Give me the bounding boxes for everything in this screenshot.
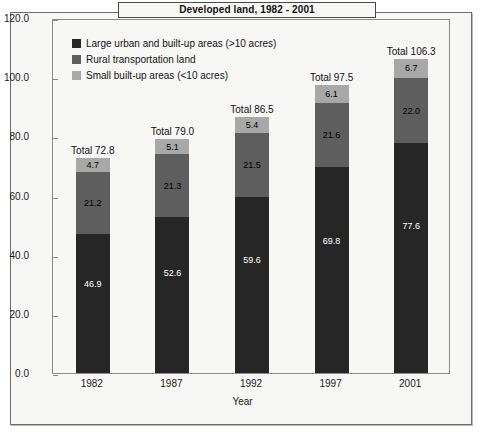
- y-tick-mark: [53, 79, 58, 80]
- bar-segment[interactable]: 5.1: [155, 139, 189, 154]
- y-tick-mark: [53, 316, 58, 317]
- legend-item-label: Rural transportation land: [86, 54, 196, 65]
- bar-segment-value: 22.0: [394, 106, 428, 116]
- legend-item[interactable]: Rural transportation land: [72, 52, 322, 67]
- bar-stack: 6.722.077.6: [394, 59, 428, 373]
- bar-segment[interactable]: 21.5: [235, 133, 269, 197]
- legend-item[interactable]: Small built-up areas (<10 acres): [72, 68, 322, 83]
- bar-segment-value: 5.1: [155, 142, 189, 152]
- x-tick-label-1997: 1997: [301, 378, 361, 389]
- y-tick-mark: [53, 138, 58, 139]
- legend-item[interactable]: Large urban and built-up areas (>10 acre…: [72, 36, 322, 51]
- x-tick-label-1982: 1982: [62, 378, 122, 389]
- bar-segment[interactable]: 77.6: [394, 143, 428, 373]
- legend-swatch-large-urban: [72, 39, 81, 48]
- bar-stack: 5.121.352.6: [155, 139, 189, 373]
- bar-segment-value: 59.6: [235, 255, 269, 265]
- y-tick-label: 120.0: [0, 13, 29, 24]
- bar-segment-value: 21.5: [235, 160, 269, 170]
- bar-stack: 5.421.559.6: [235, 117, 269, 373]
- y-tick-label: 80.0: [0, 131, 29, 142]
- legend-item-label: Large urban and built-up areas (>10 acre…: [86, 38, 276, 49]
- bar-segment[interactable]: 52.6: [155, 217, 189, 373]
- y-tick-label: 40.0: [0, 250, 29, 261]
- x-tick-label-2001: 2001: [380, 378, 440, 389]
- legend-item-label: Small built-up areas (<10 acres): [86, 70, 228, 81]
- chart-title: Developed land, 1982 - 2001: [118, 2, 376, 18]
- y-tick-label: 60.0: [0, 191, 29, 202]
- bar-segment-value: 4.7: [76, 160, 110, 170]
- bar-segment-value: 6.1: [315, 89, 349, 99]
- y-tick-mark: [53, 257, 58, 258]
- legend-swatch-rural-transportation: [72, 55, 81, 64]
- bar-total-label: Total 79.0: [133, 126, 211, 137]
- bar-segment-value: 46.9: [76, 279, 110, 289]
- bar-segment-value: 77.6: [394, 221, 428, 231]
- y-tick-label: 0.0: [0, 368, 29, 379]
- bar-segment[interactable]: 21.6: [315, 103, 349, 167]
- y-tick-label: 100.0: [0, 72, 29, 83]
- bar-segment[interactable]: 21.3: [155, 154, 189, 217]
- bar-segment-value: 6.7: [394, 63, 428, 73]
- bar-segment[interactable]: 59.6: [235, 197, 269, 373]
- bar-segment-value: 69.8: [315, 236, 349, 246]
- bar-segment-value: 52.6: [155, 268, 189, 278]
- bar-segment[interactable]: 46.9: [76, 234, 110, 373]
- bar-segment[interactable]: 6.1: [315, 85, 349, 103]
- y-tick-label: 20.0: [0, 309, 29, 320]
- chart-legend: Large urban and built-up areas (>10 acre…: [72, 36, 322, 84]
- y-tick-mark: [53, 20, 58, 21]
- bar-stack: 6.121.669.8: [315, 85, 349, 373]
- bar-total-label: Total 106.3: [372, 46, 450, 57]
- bar-segment[interactable]: 22.0: [394, 78, 428, 143]
- bar-segment-value: 21.3: [155, 181, 189, 191]
- bar-total-label: Total 86.5: [213, 104, 291, 115]
- bar-stack: 4.721.246.9: [76, 158, 110, 373]
- bar-segment[interactable]: 69.8: [315, 167, 349, 373]
- bar-segment[interactable]: 4.7: [76, 158, 110, 172]
- y-tick-mark: [53, 198, 58, 199]
- bar-segment[interactable]: 6.7: [394, 59, 428, 79]
- bar-segment[interactable]: 5.4: [235, 117, 269, 133]
- x-tick-label-1992: 1992: [221, 378, 281, 389]
- bar-segment-value: 21.6: [315, 130, 349, 140]
- bar-segment-value: 5.4: [235, 120, 269, 130]
- bar-segment-value: 21.2: [76, 198, 110, 208]
- bar-segment[interactable]: 21.2: [76, 172, 110, 235]
- bar-total-label: Total 72.8: [54, 145, 132, 156]
- legend-swatch-small-built-up: [72, 71, 81, 80]
- x-axis-title: Year: [0, 396, 485, 407]
- x-tick-label-1987: 1987: [141, 378, 201, 389]
- y-tick-mark: [53, 375, 58, 376]
